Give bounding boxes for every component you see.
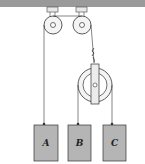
rope-to-movable <box>91 25 94 62</box>
fixed-pulley-right <box>73 16 91 34</box>
pulley-mount-left <box>47 7 58 12</box>
ceiling <box>0 0 145 7</box>
block-a: A <box>34 125 58 161</box>
fixed-pulley-left <box>44 16 62 34</box>
pulley-diagram: A B C <box>0 0 145 164</box>
block-a-label: A <box>42 138 50 148</box>
pulley-mount-right <box>76 7 87 12</box>
block-c-label: C <box>111 138 119 148</box>
block-c: C <box>103 125 126 161</box>
block-b-label: B <box>75 138 84 148</box>
movable-pulley <box>78 64 112 104</box>
block-b: B <box>68 125 91 161</box>
